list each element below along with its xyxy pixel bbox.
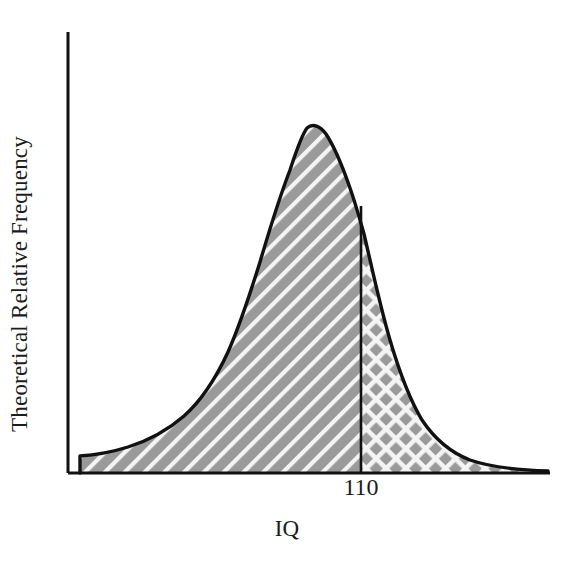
region-below-110 [60,110,361,480]
iq-distribution-figure: Theoretical Relative Frequency 110 IQ [0,0,574,567]
distribution-chart-canvas [0,0,574,567]
region-above-110 [361,110,561,480]
y-axis-title: Theoretical Relative Frequency [0,0,40,567]
x-tick-label-110: 110 [301,474,421,501]
y-axis-title-text: Theoretical Relative Frequency [7,136,33,432]
x-axis-title: IQ [0,516,574,542]
